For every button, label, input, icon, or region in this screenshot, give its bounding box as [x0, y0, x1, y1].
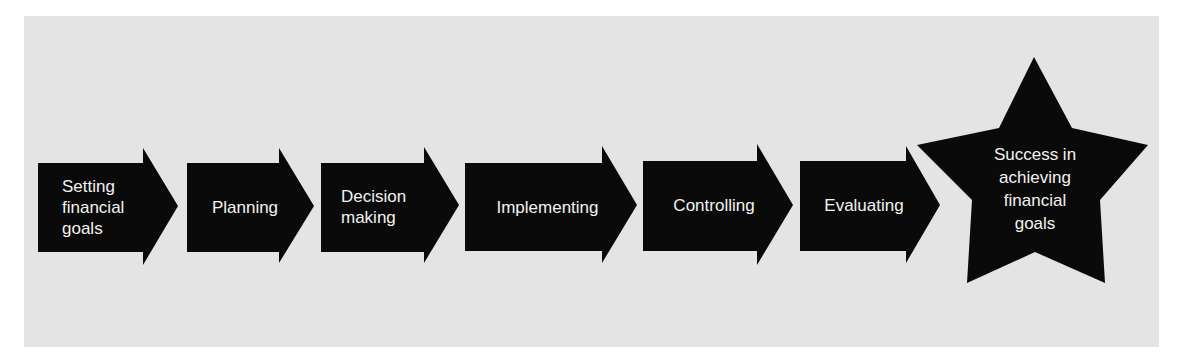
step-label-controlling: Controlling [650, 161, 778, 249]
step-label-setting-goals: Setting financial goals [62, 170, 142, 244]
step-label-evaluating: Evaluating [805, 161, 923, 249]
goal-label-success: Success in achieving financial goals [975, 135, 1095, 243]
step-label-planning: Planning [190, 163, 300, 251]
step-label-implementing: Implementing [470, 163, 625, 251]
step-label-decision-making: Decision making [341, 163, 431, 251]
